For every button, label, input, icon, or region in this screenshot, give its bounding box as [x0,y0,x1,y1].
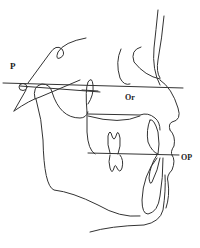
soft-tissue-forehead-inner [157,16,164,78]
tracing-svg [0,0,200,248]
upper-incisor [147,120,159,154]
ramus-outline [36,99,140,216]
orbitale-label: Or [125,94,135,102]
upper-lip [170,130,175,155]
upper-molar [108,132,121,154]
lower-incisor [149,155,160,183]
occlusal-plane-line [88,153,179,155]
soft-tissue-forehead [154,10,160,85]
lower-molar [109,155,123,172]
mandible-border [90,175,165,232]
palate-curve [88,116,140,121]
symphysis-outline [142,158,163,214]
lower-lip [166,155,174,208]
orbit-loop [86,80,93,112]
skull-base-outline [28,38,86,83]
occlusal-plane-label: OP [181,154,192,162]
porion-circle [19,84,27,91]
orbit-curve [118,49,130,84]
maxilla-posterior [87,112,95,154]
porion-label: P [10,62,16,71]
figure-caption-cropped [60,243,160,248]
zygomatic-line [14,90,26,111]
cephalometric-diagram: P Or OP [0,0,200,248]
